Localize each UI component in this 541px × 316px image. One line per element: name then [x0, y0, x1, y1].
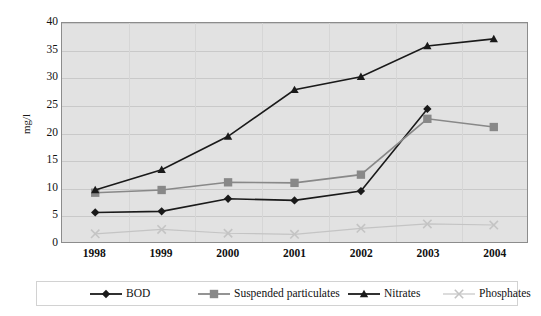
series-bod — [91, 105, 432, 217]
legend-label: Suspended particulates — [234, 288, 340, 300]
x-axis-tick: 2002 — [331, 247, 391, 261]
y-axis-tick: 0 — [30, 237, 58, 249]
legend-diamond-marker-icon — [89, 288, 123, 300]
data-point-marker — [157, 207, 165, 215]
x-axis-tick: 2003 — [398, 247, 458, 261]
series-nitrates — [91, 35, 498, 194]
y-axis-tick: 40 — [30, 16, 58, 28]
data-point-marker — [224, 178, 232, 186]
x-axis-tick: 2001 — [265, 247, 325, 261]
x-axis-tick: 2000 — [198, 247, 258, 261]
data-point-marker — [357, 72, 365, 79]
legend-item-bod[interactable]: BOD — [89, 288, 150, 300]
data-point-marker — [224, 195, 232, 203]
legend-label: Nitrates — [384, 288, 420, 300]
data-point-marker — [423, 115, 431, 123]
x-axis-tick-labels: 1998199920002001200220032004 — [61, 247, 528, 265]
y-axis-tick-labels: 0510152025303540 — [30, 22, 58, 243]
legend-x-marker-icon — [442, 288, 476, 300]
series-line — [95, 39, 494, 190]
series-line — [95, 224, 494, 234]
water-quality-line-chart: mg/l 0510152025303540 199819992000200120… — [0, 0, 541, 316]
data-point-marker — [490, 123, 498, 131]
data-point-marker — [290, 196, 298, 204]
y-axis-tick: 35 — [30, 44, 58, 56]
y-axis-tick: 25 — [30, 99, 58, 111]
y-axis-tick: 30 — [30, 72, 58, 84]
y-axis-tick: 15 — [30, 154, 58, 166]
y-axis-tick: 20 — [30, 127, 58, 139]
legend-label: BOD — [126, 288, 150, 300]
series-suspended-particulates — [91, 115, 498, 197]
plot-area — [61, 22, 528, 243]
data-point-marker — [157, 166, 165, 173]
data-point-marker — [357, 170, 365, 178]
legend-item-phosphates[interactable]: Phosphates — [442, 288, 531, 300]
x-axis-tick: 1999 — [131, 247, 191, 261]
data-point-marker — [224, 132, 232, 139]
data-point-marker — [290, 179, 298, 187]
legend-square-marker-icon — [197, 288, 231, 300]
series-layer — [62, 23, 527, 242]
y-axis-tick: 10 — [30, 182, 58, 194]
chart-legend: BODSuspended particulatesNitratesPhospha… — [36, 281, 518, 306]
legend-item-suspended-particulates[interactable]: Suspended particulates — [197, 288, 340, 300]
data-point-marker — [91, 208, 99, 216]
legend-item-nitrates[interactable]: Nitrates — [347, 288, 420, 300]
data-point-marker — [157, 186, 165, 194]
legend-label: Phosphates — [479, 288, 531, 300]
series-phosphates — [91, 220, 498, 239]
legend-triangle-marker-icon — [347, 288, 381, 300]
y-axis-tick: 5 — [30, 210, 58, 222]
x-axis-tick: 2004 — [465, 247, 525, 261]
x-axis-tick: 1998 — [64, 247, 124, 261]
